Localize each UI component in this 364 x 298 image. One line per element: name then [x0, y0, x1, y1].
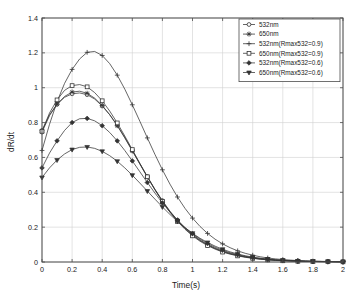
x-tick-label: 2 [341, 265, 345, 274]
legend-label: 650nm(Rmax532=0.6) [259, 69, 323, 77]
legend-label: 532nm(Rmax532=0.9) [259, 40, 323, 48]
legend-label: 650nm(Rmax532=0.9) [259, 50, 323, 58]
marker-square [85, 85, 89, 89]
marker-square [145, 175, 149, 179]
y-tick-label: 0.4 [28, 188, 38, 197]
x-tick-label: 0.2 [67, 265, 77, 274]
x-tick-label: 1.8 [308, 265, 318, 274]
marker-star [70, 90, 75, 95]
legend-label: 532nm(Rmax532=0.6) [259, 59, 323, 67]
x-tick-label: 0.8 [157, 265, 167, 274]
y-tick-label: 1 [34, 83, 38, 92]
legend-label: 650nm [259, 30, 279, 37]
marker-square [247, 51, 251, 55]
marker-star [85, 91, 90, 96]
chart-legend[interactable]: 532nm650nm532nm(Rmax532=0.9)650nm(Rmax53… [239, 19, 340, 82]
x-tick-label: 1.2 [218, 265, 228, 274]
x-tick-label: 0.6 [127, 265, 137, 274]
y-tick-label: 0 [34, 258, 38, 267]
marker-circle [247, 23, 251, 27]
x-axis-title: Time(s) [172, 280, 200, 290]
legend-label: 532nm [259, 21, 279, 28]
y-axis-title: dR/dt [6, 131, 16, 152]
marker-square [55, 98, 59, 102]
y-tick-label: 0.2 [28, 223, 38, 232]
marker-star [247, 32, 252, 37]
y-tick-label: 1.4 [28, 14, 38, 23]
y-tick-label: 0.8 [28, 118, 38, 127]
y-tick-label: 0.6 [28, 153, 38, 162]
y-tick-label: 1.2 [28, 48, 38, 57]
chart-plot[interactable]: 00.20.40.60.811.21.41.61.8200.20.40.60.8… [0, 0, 364, 298]
x-tick-label: 0 [40, 265, 44, 274]
marker-square [100, 99, 104, 103]
x-axis-title-text: Time(s) [172, 280, 200, 290]
x-tick-label: 1.6 [278, 265, 288, 274]
marker-square [130, 148, 134, 152]
x-tick-label: 1 [191, 265, 195, 274]
x-tick-label: 0.4 [97, 265, 107, 274]
x-tick-label: 1.4 [248, 265, 258, 274]
marker-square [115, 121, 119, 125]
marker-square [70, 84, 74, 88]
y-axis-title-text: dR/dt [6, 131, 16, 152]
figure-canvas: 00.20.40.60.811.21.41.61.8200.20.40.60.8… [0, 0, 364, 298]
